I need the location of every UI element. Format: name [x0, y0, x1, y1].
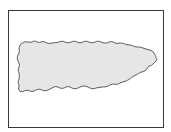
island-map	[0, 0, 171, 132]
puerto-rico-outline	[17, 41, 157, 92]
map-canvas: Puerto Rico	[0, 0, 171, 132]
